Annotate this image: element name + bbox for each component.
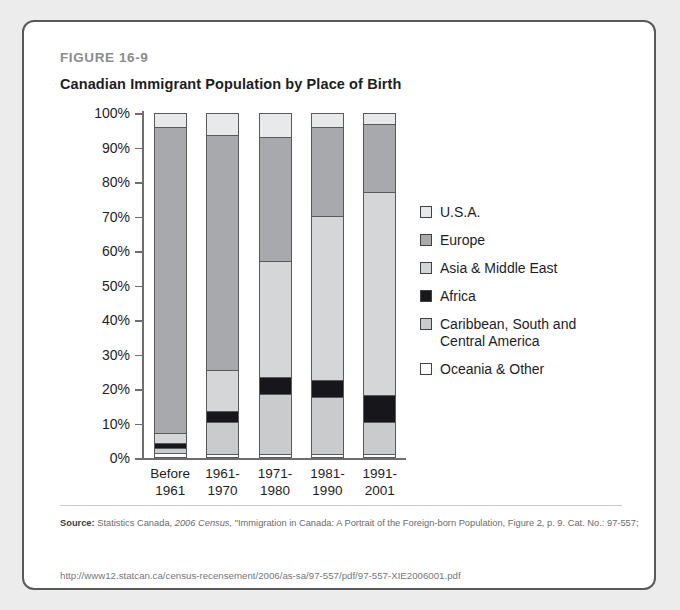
footer-divider <box>60 505 622 506</box>
bar-segment <box>260 395 291 455</box>
y-axis-tick-label: 90% <box>102 140 130 156</box>
stacked-bar <box>259 113 292 458</box>
legend-swatch-icon <box>420 318 432 330</box>
legend-swatch-icon <box>420 290 432 302</box>
legend-swatch-icon <box>420 262 432 274</box>
bar-segment <box>260 138 291 261</box>
x-axis-tick-label: 1971-1980 <box>245 465 305 499</box>
bar-segment <box>155 114 186 128</box>
y-axis-tick <box>135 217 142 219</box>
legend-item[interactable]: Europe <box>420 232 630 249</box>
y-axis-tick-label: 80% <box>102 174 130 190</box>
y-axis-tick-label: 50% <box>102 278 130 294</box>
bar-segment <box>364 396 395 423</box>
bar-segment <box>364 193 395 396</box>
x-axis-tick-label: 1981-1990 <box>297 465 357 499</box>
y-axis-tick-label: 100% <box>94 105 130 121</box>
bar-segment <box>260 262 291 379</box>
y-axis-tick-label: 30% <box>102 347 130 363</box>
legend-item[interactable]: Asia & Middle East <box>420 260 630 277</box>
bar-segment <box>364 114 395 125</box>
bar-segment <box>312 128 343 217</box>
bar-segment <box>207 412 238 423</box>
y-axis-tick <box>135 251 142 253</box>
stacked-bar <box>206 113 239 458</box>
chart-legend: U.S.A.EuropeAsia & Middle EastAfricaCari… <box>420 204 630 389</box>
bar-segment <box>207 371 238 412</box>
figure-title: Canadian Immigrant Population by Place o… <box>60 76 401 92</box>
y-axis-tick <box>135 389 142 391</box>
source-prefix: Source: <box>60 518 95 528</box>
bar-segment <box>312 455 343 457</box>
y-axis-line <box>142 111 144 460</box>
y-axis-tick <box>135 148 142 150</box>
y-axis-tick <box>135 182 142 184</box>
legend-swatch-icon <box>420 363 432 375</box>
legend-label: U.S.A. <box>440 204 480 221</box>
legend-item[interactable]: Oceania & Other <box>420 361 630 378</box>
y-axis-tick-label: 70% <box>102 209 130 225</box>
legend-label: Caribbean, South andCentral America <box>440 316 576 350</box>
legend-item[interactable]: Caribbean, South andCentral America <box>420 316 630 350</box>
y-axis-tick-label: 60% <box>102 243 130 259</box>
y-axis-tick <box>135 458 142 460</box>
bar-segment <box>312 217 343 381</box>
stacked-bar <box>363 113 396 458</box>
legend-label: Oceania & Other <box>440 361 544 378</box>
legend-item[interactable]: U.S.A. <box>420 204 630 221</box>
legend-swatch-icon <box>420 206 432 218</box>
bar-segment <box>155 434 186 444</box>
x-axis-tick-label: Before1961 <box>140 465 200 499</box>
y-axis-tick-label: 20% <box>102 381 130 397</box>
source-url: http://www12.statcan.ca/census-recenseme… <box>60 570 461 581</box>
bar-segment <box>207 114 238 136</box>
bar-segment <box>364 423 395 455</box>
figure-card: FIGURE 16-9 Canadian Immigrant Populatio… <box>22 20 656 590</box>
bar-segment <box>207 423 238 455</box>
y-axis-tick <box>135 355 142 357</box>
source-census-title: 2006 Census, <box>175 518 232 528</box>
bar-segment <box>207 455 238 457</box>
y-axis-tick <box>135 286 142 288</box>
x-axis-tick-label: 1961-1970 <box>193 465 253 499</box>
bar-segment <box>364 125 395 193</box>
chart-plot-area: 0%10%20%30%40%50%60%70%80%90%100% Before… <box>142 113 404 458</box>
bar-segment <box>260 378 291 395</box>
y-axis-tick <box>135 424 142 426</box>
x-axis-line <box>142 458 406 460</box>
y-axis-tick-label: 40% <box>102 312 130 328</box>
legend-label: Europe <box>440 232 485 249</box>
bar-segment <box>260 455 291 457</box>
stacked-bar <box>154 113 187 458</box>
bar-segment <box>312 381 343 398</box>
legend-label: Asia & Middle East <box>440 260 558 277</box>
source-note: Source: Statistics Canada, 2006 Census, … <box>60 516 640 531</box>
bar-segment <box>312 114 343 128</box>
y-axis-tick <box>135 320 142 322</box>
figure-label: FIGURE 16-9 <box>60 50 148 65</box>
bar-segment <box>312 398 343 455</box>
bar-segment <box>364 455 395 457</box>
bar-segment <box>207 136 238 372</box>
legend-item[interactable]: Africa <box>420 288 630 305</box>
y-axis-tick-label: 0% <box>110 450 130 466</box>
y-axis-tick <box>135 113 142 115</box>
legend-swatch-icon <box>420 234 432 246</box>
y-axis-tick-label: 10% <box>102 416 130 432</box>
stacked-bar <box>311 113 344 458</box>
x-axis-tick-label: 1991-2001 <box>350 465 410 499</box>
bar-segment <box>155 128 186 434</box>
legend-label: Africa <box>440 288 476 305</box>
bar-segment <box>260 114 291 138</box>
bar-segment <box>155 454 186 457</box>
